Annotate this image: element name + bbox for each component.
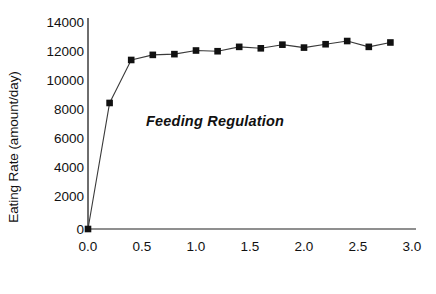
data-point-marker — [366, 44, 373, 51]
series-markers — [85, 38, 394, 233]
series-line — [88, 41, 390, 229]
plot-annotation: Feeding Regulation — [146, 113, 284, 129]
data-point-marker — [301, 44, 308, 51]
data-point-marker — [322, 41, 329, 48]
plot-area — [0, 0, 436, 294]
data-point-marker — [344, 38, 351, 45]
data-point-marker — [128, 57, 135, 64]
data-point-marker — [279, 41, 286, 48]
data-point-marker — [258, 45, 265, 52]
data-point-marker — [85, 226, 92, 233]
data-point-marker — [214, 48, 221, 55]
data-point-marker — [171, 51, 178, 58]
data-point-marker — [387, 39, 394, 46]
chart-figure: Eating Rate (amount/day) 14000 12000 100… — [0, 0, 436, 294]
data-point-marker — [193, 47, 200, 54]
data-point-marker — [236, 44, 243, 51]
data-point-marker — [106, 100, 113, 107]
data-point-marker — [150, 52, 157, 59]
